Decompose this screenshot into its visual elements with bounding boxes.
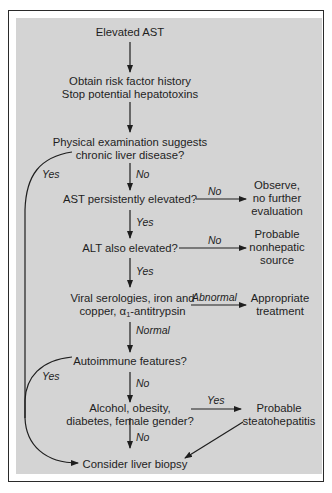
label-alt-no: No: [208, 234, 221, 246]
node-autoimmune: Autoimmune features?: [70, 355, 190, 368]
label-auto-no: No: [136, 377, 149, 389]
label-viral-normal: Normal: [136, 324, 170, 336]
node-nonhepatic: Probable nonhepatic source: [247, 228, 307, 267]
label-alcohol-yes: Yes: [207, 394, 225, 406]
node-steatohepatitis: Probable steatohepatitis: [240, 402, 318, 428]
label-exam-yes: Yes: [42, 168, 60, 180]
node-physical-exam: Physical examination suggests chronic li…: [50, 136, 210, 162]
node-liver-biopsy: Consider liver biopsy: [80, 458, 190, 471]
node-appropriate-treatment: Appropriate treatment: [247, 292, 313, 318]
node-observe: Observe, no further evaluation: [247, 179, 307, 218]
node-elevated-ast: Elevated AST: [90, 26, 170, 39]
label-viral-abnormal: Abnormal: [192, 291, 237, 303]
node-risk-history: Obtain risk factor history Stop potentia…: [60, 75, 200, 101]
label-auto-yes: Yes: [42, 370, 60, 382]
node-alt-elevated: ALT also elevated?: [80, 242, 180, 255]
node-viral-serologies: Viral serologies, iron and copper, α1-an…: [70, 292, 195, 321]
label-alt-yes: Yes: [136, 265, 154, 277]
label-ast-yes: Yes: [136, 216, 154, 228]
node-alcohol-obesity: Alcohol, obesity, diabetes, female gende…: [60, 402, 200, 428]
label-alcohol-no: No: [136, 431, 149, 443]
label-ast-no: No: [208, 185, 221, 197]
node-ast-persistent: AST persistently elevated?: [60, 193, 200, 206]
label-exam-no: No: [136, 168, 149, 180]
